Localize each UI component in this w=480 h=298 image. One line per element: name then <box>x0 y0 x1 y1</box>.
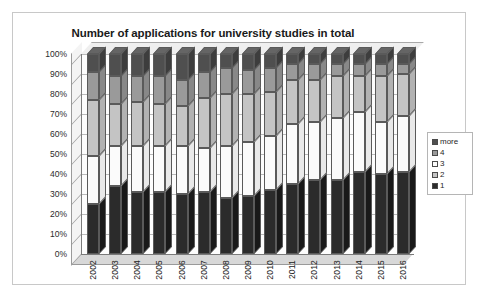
bar-segment[interactable] <box>353 172 365 254</box>
bar-segment[interactable] <box>109 146 121 186</box>
bar-segment[interactable] <box>242 196 254 254</box>
bar-column[interactable] <box>375 54 387 254</box>
bar-segment[interactable] <box>109 54 121 76</box>
legend-item[interactable]: 4 <box>432 147 469 158</box>
bar-segment[interactable] <box>198 192 210 254</box>
bar-segment[interactable] <box>308 180 320 254</box>
bar-column[interactable] <box>220 54 232 254</box>
y-axis-tick-label: 100% <box>25 49 67 59</box>
bar-segment[interactable] <box>353 64 365 76</box>
bar-segment[interactable] <box>131 192 143 254</box>
bar-segment[interactable] <box>264 68 276 92</box>
bar-column[interactable] <box>198 54 210 254</box>
bar-column[interactable] <box>87 54 99 254</box>
bar-segment[interactable] <box>331 76 343 118</box>
bar-segment[interactable] <box>264 136 276 190</box>
bar-segment[interactable] <box>242 70 254 94</box>
bar-column[interactable] <box>264 54 276 254</box>
bar-column[interactable] <box>331 54 343 254</box>
bar-column[interactable] <box>353 54 365 254</box>
bar-segment[interactable] <box>353 76 365 112</box>
bar-column[interactable] <box>308 54 320 254</box>
bar-segment[interactable] <box>331 64 343 76</box>
bar-segment[interactable] <box>308 64 320 80</box>
bar-segment[interactable] <box>220 68 232 94</box>
bar-segment[interactable] <box>308 80 320 122</box>
legend-item-label: 1 <box>440 182 444 190</box>
bar-segment[interactable] <box>153 146 165 192</box>
bar-segment[interactable] <box>220 54 232 68</box>
bar-segment[interactable] <box>353 54 365 64</box>
bar-segment[interactable] <box>131 146 143 192</box>
bar-column[interactable] <box>397 54 409 254</box>
bar-segment[interactable] <box>308 122 320 180</box>
bar-segment[interactable] <box>153 76 165 104</box>
bar-segment[interactable] <box>109 76 121 104</box>
bar-segment[interactable] <box>308 54 320 64</box>
bar-segment[interactable] <box>331 118 343 180</box>
bar-segment[interactable] <box>176 80 188 106</box>
bar-segment[interactable] <box>286 64 298 80</box>
bar-segment[interactable] <box>264 54 276 68</box>
bar-segment[interactable] <box>198 148 210 192</box>
bar-segment[interactable] <box>242 54 254 70</box>
bar-segment[interactable] <box>131 54 143 76</box>
bar-column[interactable] <box>109 54 121 254</box>
bar-segment[interactable] <box>87 72 99 100</box>
legend-item-label: more <box>440 138 458 146</box>
bar-segment[interactable] <box>87 156 99 204</box>
bar-segment[interactable] <box>198 98 210 148</box>
bar-segment[interactable] <box>353 112 365 172</box>
bar-segment[interactable] <box>286 184 298 254</box>
bar-segment[interactable] <box>375 122 387 174</box>
bar-segment[interactable] <box>397 54 409 64</box>
bar-segment[interactable] <box>153 54 165 76</box>
bar-segment[interactable] <box>375 64 387 76</box>
bar-segment[interactable] <box>397 116 409 172</box>
bar-segment[interactable] <box>220 198 232 254</box>
bar-column[interactable] <box>176 54 188 254</box>
bar-segment[interactable] <box>198 72 210 98</box>
bar-segment[interactable] <box>397 74 409 116</box>
bar-segment[interactable] <box>176 54 188 80</box>
bar-segment[interactable] <box>220 146 232 198</box>
bar-segment[interactable] <box>331 54 343 64</box>
bar-segment[interactable] <box>176 194 188 254</box>
bar-segment-side <box>165 96 172 146</box>
bar-column[interactable] <box>131 54 143 254</box>
bar-segment[interactable] <box>220 94 232 146</box>
bar-segment[interactable] <box>397 172 409 254</box>
bar-segment[interactable] <box>397 64 409 74</box>
bar-segment[interactable] <box>109 104 121 146</box>
bar-segment[interactable] <box>375 76 387 122</box>
legend-item[interactable]: more <box>432 136 469 147</box>
legend-item[interactable]: 3 <box>432 158 469 169</box>
bar-segment[interactable] <box>264 190 276 254</box>
bar-segment[interactable] <box>331 180 343 254</box>
bar-segment[interactable] <box>109 186 121 254</box>
bar-segment[interactable] <box>264 92 276 136</box>
bar-segment[interactable] <box>87 54 99 72</box>
y-axis-tick-label: 0% <box>25 249 67 259</box>
bar-column[interactable] <box>153 54 165 254</box>
legend-item[interactable]: 1 <box>432 180 469 191</box>
legend-item[interactable]: 2 <box>432 169 469 180</box>
bar-segment[interactable] <box>131 102 143 146</box>
bar-segment[interactable] <box>87 204 99 254</box>
bar-segment[interactable] <box>242 94 254 142</box>
bar-segment[interactable] <box>198 54 210 72</box>
bar-segment[interactable] <box>286 54 298 64</box>
bar-segment[interactable] <box>242 142 254 196</box>
bar-segment[interactable] <box>286 124 298 184</box>
bar-segment[interactable] <box>286 80 298 124</box>
bar-segment[interactable] <box>131 76 143 102</box>
bar-segment[interactable] <box>87 100 99 156</box>
bar-column[interactable] <box>286 54 298 254</box>
bar-segment[interactable] <box>375 174 387 254</box>
bar-segment[interactable] <box>153 192 165 254</box>
bar-segment[interactable] <box>176 106 188 146</box>
bar-segment[interactable] <box>375 54 387 64</box>
bar-segment[interactable] <box>153 104 165 146</box>
bar-segment[interactable] <box>176 146 188 194</box>
bar-column[interactable] <box>242 54 254 254</box>
